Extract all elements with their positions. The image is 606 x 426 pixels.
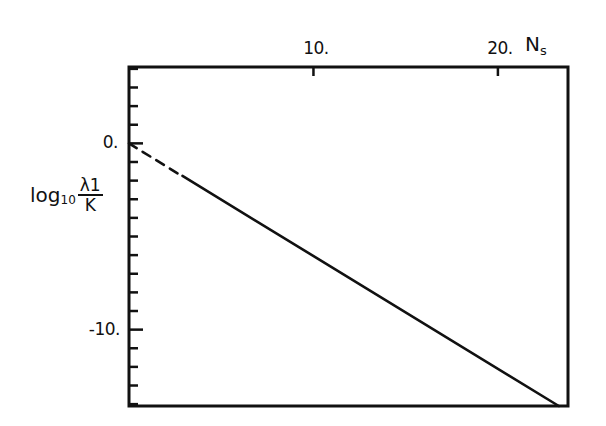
x-axis-title-main: N bbox=[525, 32, 540, 56]
y-axis-title-log: log bbox=[30, 183, 61, 207]
y-axis-title-numerator: λ1 bbox=[78, 176, 103, 196]
y-axis-title-base: 10 bbox=[61, 193, 76, 207]
y-axis-title: log 10 λ1 K bbox=[30, 176, 103, 214]
data-lines bbox=[129, 143, 559, 406]
x-tick-label-10: 10. bbox=[303, 38, 329, 58]
x-axis-title-sub: s bbox=[540, 43, 547, 58]
y-tick-label-0: 0. bbox=[58, 132, 118, 152]
x-axis-title: Ns bbox=[525, 32, 547, 58]
axis-ticks bbox=[129, 67, 498, 404]
y-tick-label-neg10: -10. bbox=[60, 319, 120, 339]
plot-frame bbox=[129, 67, 568, 406]
y-axis-title-denominator: K bbox=[85, 196, 96, 214]
x-tick-label-20: 20. bbox=[487, 38, 513, 58]
y-axis-title-fraction: λ1 K bbox=[78, 176, 103, 214]
